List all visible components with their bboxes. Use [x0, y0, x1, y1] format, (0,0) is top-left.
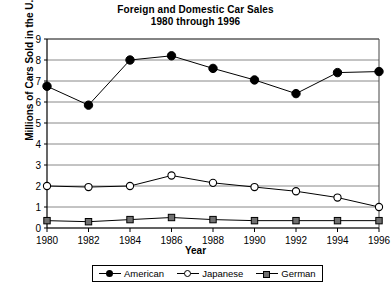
legend-label-american: American — [124, 268, 164, 279]
data-point-marker — [333, 68, 341, 76]
y-axis-tick-label: 6 — [35, 97, 41, 108]
data-point-marker — [85, 183, 92, 190]
legend-item-japanese: Japanese — [177, 268, 243, 279]
data-point-marker — [209, 179, 216, 186]
data-point-marker — [375, 67, 383, 75]
data-point-marker — [376, 217, 382, 223]
y-axis-tick-label: 2 — [35, 181, 41, 192]
y-axis-tick-label: 9 — [35, 34, 41, 45]
data-point-marker — [209, 64, 217, 72]
data-point-marker — [126, 182, 133, 189]
legend-item-american: American — [99, 268, 164, 279]
data-point-marker — [293, 217, 299, 223]
chart-container: Foreign and Domestic Car Sales 1980 thro… — [0, 0, 391, 291]
data-point-marker — [251, 217, 257, 223]
filled-circle-marker-icon — [99, 269, 121, 278]
legend-label-german: German — [281, 268, 315, 279]
chart-legend: American Japanese German — [92, 265, 323, 282]
data-point-marker — [210, 216, 216, 222]
y-axis-tick-label: 4 — [35, 139, 41, 150]
legend-label-japanese: Japanese — [202, 268, 243, 279]
data-point-marker — [292, 89, 300, 97]
data-point-marker — [334, 194, 341, 201]
y-axis-tick-label: 3 — [35, 160, 41, 171]
y-axis-tick-label: 7 — [35, 76, 41, 87]
data-point-marker — [168, 214, 174, 220]
x-axis-label: Year — [0, 245, 391, 256]
data-point-marker — [84, 101, 92, 109]
data-point-marker — [375, 203, 382, 210]
data-point-marker — [126, 56, 134, 64]
series-line-american — [47, 56, 379, 105]
data-point-marker — [168, 172, 175, 179]
data-point-marker — [251, 183, 258, 190]
data-point-marker — [167, 52, 175, 60]
open-circle-marker-icon — [177, 269, 199, 278]
y-axis-tick-label: 5 — [35, 118, 41, 129]
legend-item-german: German — [256, 268, 315, 279]
data-point-marker — [44, 217, 50, 223]
data-point-marker — [127, 216, 133, 222]
data-point-marker — [43, 182, 50, 189]
data-point-marker — [43, 82, 51, 90]
data-point-marker — [292, 188, 299, 195]
data-point-marker — [334, 217, 340, 223]
filled-square-marker-icon — [256, 269, 278, 278]
y-axis-tick-label: 1 — [35, 202, 41, 213]
y-axis-tick-label: 0 — [35, 223, 41, 234]
data-point-marker — [85, 219, 91, 225]
data-point-marker — [250, 76, 258, 84]
y-axis-label: Millions of Cars Sold in the U.S. — [24, 0, 35, 166]
y-axis-tick-label: 8 — [35, 55, 41, 66]
